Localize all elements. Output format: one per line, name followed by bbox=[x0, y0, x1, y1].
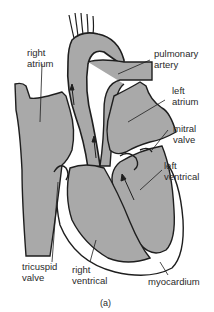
figure-caption: (a) bbox=[100, 298, 111, 308]
heart-diagram: right atrium pulmonary artery left atriu… bbox=[0, 0, 214, 312]
label-left-ventrical: left ventrical bbox=[164, 160, 199, 182]
label-right-ventrical: right ventrical bbox=[72, 264, 107, 286]
label-right-atrium: right atrium bbox=[27, 47, 53, 69]
label-myocardium: myocardium bbox=[148, 276, 200, 287]
label-pulmonary-artery: pulmonary artery bbox=[154, 48, 198, 70]
label-tricuspid-valve: tricuspid valve bbox=[22, 261, 57, 283]
label-left-atrium: left atrium bbox=[172, 85, 198, 107]
label-mitral-valve: mitral valve bbox=[173, 123, 196, 145]
